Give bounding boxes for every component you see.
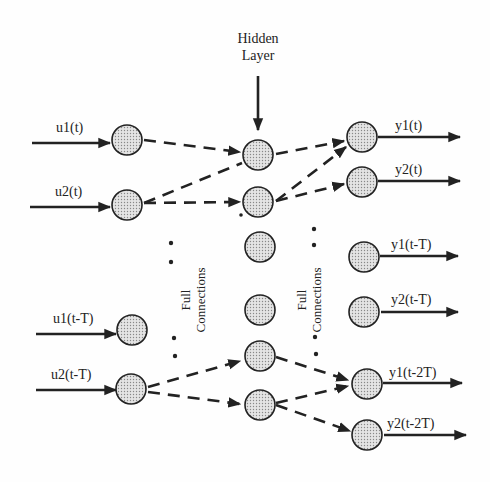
output-label-y2-t-2T: y2(t-2T) — [387, 416, 435, 432]
output-lines — [378, 137, 466, 435]
connection-line — [276, 357, 348, 380]
hidden-node-3 — [245, 232, 275, 262]
full-connections-label-left: Full Connections — [178, 268, 208, 333]
label-line: Full — [178, 289, 193, 310]
output-label-y2-t-T: y2(t-T) — [391, 292, 432, 308]
output-node-y2-t-2T — [352, 420, 382, 450]
input-nodes — [112, 125, 147, 404]
input-label-u1-t: u1(t) — [56, 120, 84, 136]
connection-line — [276, 184, 344, 201]
output-node-y1-t — [347, 122, 377, 152]
hidden-node-5 — [245, 341, 275, 371]
input-lines — [30, 143, 116, 390]
input-node-u1-t — [112, 125, 142, 155]
input-node-u2-t — [112, 190, 142, 220]
output-label-y2-t: y2(t) — [395, 162, 423, 178]
label-line: Connections — [309, 268, 324, 333]
hidden-nodes — [243, 140, 275, 420]
connection-line — [276, 141, 344, 154]
title-line-1: Hidden — [237, 31, 278, 46]
hidden-node-4 — [245, 295, 275, 325]
connection-line — [276, 405, 350, 431]
ellipsis-dots — [169, 213, 318, 358]
hidden-node-6 — [245, 390, 275, 420]
connection-line — [276, 147, 346, 201]
full-connections-label-right: Full Connections — [294, 268, 324, 333]
output-label-y1-t: y1(t) — [395, 118, 423, 134]
label-line: Connections — [193, 268, 208, 333]
output-label-y1-t-T: y1(t-T) — [391, 237, 432, 253]
output-node-y1-t-2T — [352, 369, 382, 399]
output-node-y2-t — [347, 167, 377, 197]
neural-network-diagram: Hidden Layer u1(t) u2(t) u1(t-T) u2(t-T) — [0, 0, 490, 482]
input-label-u2-t-T: u2(t-T) — [51, 367, 92, 383]
connection-line — [276, 386, 348, 403]
connection-line — [144, 163, 242, 203]
hidden-node-1 — [243, 140, 273, 170]
connection-line — [144, 140, 240, 152]
output-label-y1-t-2T: y1(t-2T) — [389, 365, 437, 381]
connection-line — [148, 361, 240, 387]
input-label-u1-t-T: u1(t-T) — [53, 311, 94, 327]
hidden-layer-title: Hidden Layer — [237, 31, 278, 130]
input-label-u2-t: u2(t) — [55, 184, 83, 200]
input-node-u1-t-T — [117, 315, 147, 345]
output-nodes — [347, 122, 382, 450]
output-node-y1-t-T — [349, 242, 379, 272]
connection-line — [144, 202, 240, 203]
label-line: Full — [294, 289, 309, 310]
input-node-u2-t-T — [116, 374, 146, 404]
output-node-y2-t-T — [349, 297, 379, 327]
hidden-node-2 — [243, 187, 273, 217]
title-line-2: Layer — [242, 48, 275, 63]
connection-line — [148, 392, 240, 404]
